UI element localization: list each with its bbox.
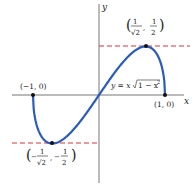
svg-text:): ) [159, 17, 164, 33]
equation-label: y = x 1 − x 2 [110, 79, 160, 90]
label-min: ( − 1 √2 , − 1 2 ) [26, 147, 76, 167]
point-neg1-0 [31, 93, 35, 97]
svg-text:√2: √2 [37, 159, 46, 167]
point-1-0 [163, 93, 167, 97]
diagram-root: y x (−1, 0) (1, 0) ( 1 √2 , 1 2 ) ( − 1 … [0, 0, 196, 187]
svg-text:1: 1 [152, 18, 156, 26]
svg-text:−: − [54, 153, 60, 161]
point-min [50, 141, 54, 145]
label-1-0: (1, 0) [154, 100, 174, 109]
y-axis-label: y [101, 2, 108, 12]
function-graph: y x (−1, 0) (1, 0) ( 1 √2 , 1 2 ) ( − 1 … [0, 0, 196, 187]
svg-text:,: , [143, 24, 145, 32]
svg-text:1: 1 [40, 148, 44, 156]
svg-text:y = x: y = x [110, 81, 131, 90]
svg-text:2: 2 [157, 79, 160, 85]
point-max [144, 44, 148, 48]
svg-text:2: 2 [151, 29, 155, 37]
svg-text:1: 1 [133, 18, 137, 26]
label-neg1-0: (−1, 0) [20, 82, 47, 91]
svg-text:2: 2 [62, 159, 66, 167]
x-axis-label: x [184, 96, 189, 106]
svg-text:): ) [71, 147, 76, 163]
label-max: ( 1 √2 , 1 2 ) [126, 17, 164, 37]
svg-text:1: 1 [63, 148, 67, 156]
svg-text:√2: √2 [131, 29, 140, 37]
svg-text:,: , [50, 154, 52, 162]
svg-text:1 − x: 1 − x [138, 81, 159, 90]
